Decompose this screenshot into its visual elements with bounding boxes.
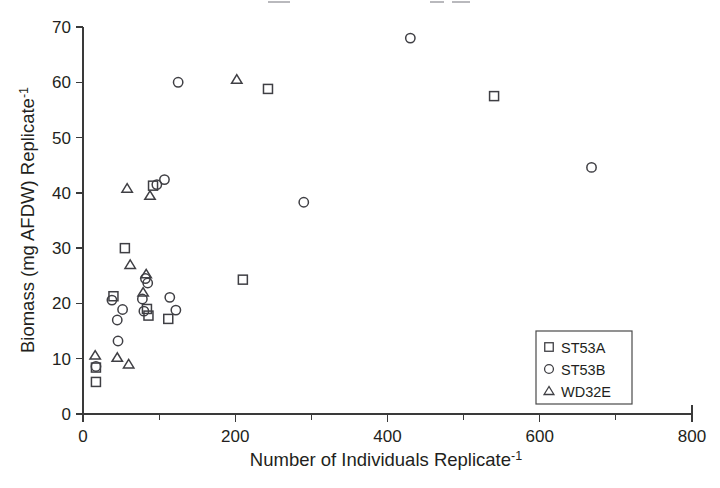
x-tick-label: 200: [221, 427, 249, 446]
data-point-triangle: [145, 191, 155, 200]
data-point-circle: [160, 175, 169, 184]
legend-label-st53a: ST53A: [561, 340, 606, 356]
data-point-square: [120, 244, 129, 253]
x-axis-title: Number of Individuals Replicate-1: [250, 449, 522, 470]
x-axis-title-superscript: -1: [511, 449, 522, 463]
y-axis-ticks: 010203040506070: [52, 18, 83, 424]
y-axis-title-main: Biomass (mg AFDW) Replicate: [17, 98, 38, 353]
data-point-triangle: [122, 184, 132, 193]
data-point-circle: [113, 336, 122, 345]
x-tick-label: 0: [78, 427, 87, 446]
x-axis-title-main: Number of Individuals Replicate: [250, 449, 511, 470]
data-point-circle: [113, 315, 122, 324]
data-point-triangle: [90, 351, 100, 360]
y-tick-label: 60: [52, 73, 71, 92]
y-tick-label: 0: [62, 405, 71, 424]
data-point-group: [90, 33, 596, 386]
y-tick-label: 30: [52, 239, 71, 258]
data-point-square: [263, 84, 272, 93]
x-tick-label: 800: [678, 427, 706, 446]
legend-label-wd32e: WD32E: [561, 384, 611, 400]
y-tick-label: 50: [52, 129, 71, 148]
data-point-square: [91, 377, 100, 386]
y-tick-label: 20: [52, 294, 71, 313]
data-point-square: [164, 314, 173, 323]
y-tick-label: 10: [52, 350, 71, 369]
y-axis-title: Biomass (mg AFDW) Replicate-1: [17, 87, 38, 353]
series-st53a: [91, 84, 498, 386]
data-point-triangle: [112, 353, 122, 362]
data-point-square: [490, 92, 499, 101]
data-point-circle: [118, 305, 127, 314]
data-point-circle: [171, 305, 180, 314]
data-point-circle: [173, 78, 182, 87]
scatter-plot-figure: 010203040506070 0200400600800 Number of …: [0, 0, 720, 488]
legend-label-st53b: ST53B: [561, 362, 605, 378]
data-point-circle: [299, 198, 308, 207]
y-axis-title-superscript: -1: [17, 87, 31, 98]
x-tick-label: 600: [526, 427, 554, 446]
data-point-circle: [587, 163, 596, 172]
series-st53b: [91, 33, 596, 371]
data-point-circle: [165, 293, 174, 302]
data-point-circle: [406, 33, 415, 42]
data-point-triangle: [125, 260, 135, 269]
y-tick-label: 70: [52, 18, 71, 37]
data-point-triangle: [123, 359, 133, 368]
y-tick-label: 40: [52, 184, 71, 203]
data-point-square: [238, 275, 247, 284]
x-tick-label: 400: [373, 427, 401, 446]
legend: ST53AST53BWD32E: [536, 331, 632, 404]
chart-canvas: 010203040506070 0200400600800 Number of …: [0, 0, 720, 488]
data-point-triangle: [232, 75, 242, 84]
x-axis-ticks: 0200400600800: [78, 414, 706, 446]
